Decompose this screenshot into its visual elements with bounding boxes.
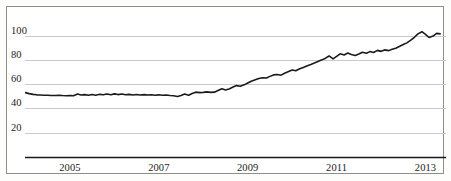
x-tick-label: 2009 xyxy=(237,163,258,174)
x-tick-label: 2011 xyxy=(326,163,347,174)
line-chart-svg xyxy=(25,21,446,169)
plot-area: 20406080100 20052007200920112013 xyxy=(25,21,446,169)
chart-frame: 20406080100 20052007200920112013 xyxy=(6,6,444,174)
x-tick-label: 2005 xyxy=(59,163,80,174)
y-tick-label: 60 xyxy=(11,74,22,85)
y-tick-label: 80 xyxy=(11,50,22,61)
chart-figure: 20406080100 20052007200920112013 xyxy=(0,0,451,181)
y-tick-label: 100 xyxy=(11,26,27,37)
x-tick-label: 2013 xyxy=(415,163,436,174)
y-tick-label: 40 xyxy=(11,98,22,109)
y-tick-label: 20 xyxy=(11,123,22,134)
data-series-line xyxy=(26,32,441,97)
x-tick-label: 2007 xyxy=(148,163,169,174)
